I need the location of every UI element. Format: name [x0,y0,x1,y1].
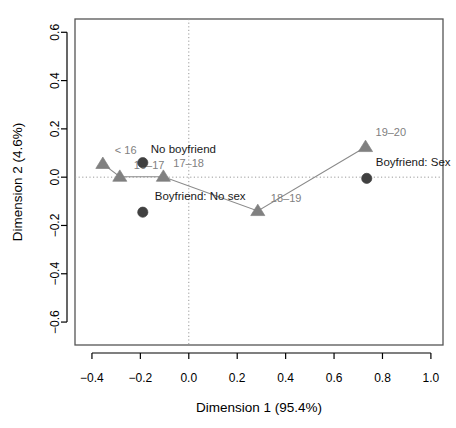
data-point-label: 19–20 [376,126,407,138]
data-point-label: Boyfriend: Sex [376,156,451,168]
x-axis-tick-label: 0.0 [180,371,197,385]
triangle-marker[interactable] [156,170,170,181]
x-axis-title: Dimension 1 (95.4%) [196,400,322,415]
y-axis-tick-label: 0.2 [48,120,62,137]
x-axis-tick-label: 0.8 [374,371,391,385]
data-point-label: 17–18 [173,157,204,169]
data-point[interactable]: 19–20 [359,126,407,152]
x-axis-tick-label: 0.6 [326,371,343,385]
triangle-marker[interactable] [113,170,127,181]
data-point[interactable]: < 16 [96,144,137,169]
circle-marker[interactable] [138,158,148,168]
data-point-label: No boyfriend [151,143,216,155]
y-axis-tick-label: −0.4 [48,262,62,286]
circle-marker[interactable] [138,207,148,217]
data-point[interactable]: Boyfriend: Sex [362,156,451,183]
x-axis-tick-label: −0.2 [129,371,153,385]
x-axis-tick-label: 0.4 [277,371,294,385]
x-axis-tick-label: 0.2 [229,371,246,385]
data-point[interactable]: 18–19 [251,192,302,216]
y-axis-tick-label: 0.6 [48,24,62,41]
y-axis-title: Dimension 2 (4.6%) [10,123,25,242]
y-axis-tick-label: −0.2 [48,213,62,237]
series-1: < 1616–1717–1818–1919–20 [96,126,406,216]
plot-canvas: −0.4−0.20.00.20.40.60.81.0−0.6−0.4−0.20.… [0,0,456,428]
circle-marker[interactable] [362,173,372,183]
x-axis-tick-label: −0.4 [80,371,104,385]
data-point-label: 18–19 [271,192,302,204]
y-axis-tick-label: −0.6 [48,310,62,334]
y-axis-tick-label: 0.0 [48,169,62,186]
data-point-label: < 16 [115,144,137,156]
x-axis-tick-label: 1.0 [423,371,440,385]
triangle-marker[interactable] [359,140,373,151]
data-point-label: Boyfriend: No sex [155,190,246,202]
plot-box-frame [75,19,443,345]
y-axis-tick-label: 0.4 [48,72,62,89]
series-2: No boyfriendBoyfriend: No sexBoyfriend: … [138,143,451,218]
triangle-marker[interactable] [251,204,265,215]
triangle-marker[interactable] [96,157,110,168]
data-point[interactable]: Boyfriend: No sex [138,190,246,217]
correspondence-analysis-plot: −0.4−0.20.00.20.40.60.81.0−0.6−0.4−0.20.… [0,0,456,428]
